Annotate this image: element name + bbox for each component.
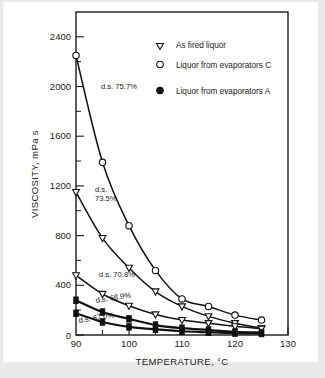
data-point-filled — [233, 330, 237, 336]
series-line — [76, 192, 262, 328]
annotation-ds-73-5-line2: 73.5% — [95, 194, 117, 203]
y-axis-title: VISCOSITY, mPa s — [29, 130, 40, 218]
legend-entry-liquor-evaporators-c: Liquor from evaporators C — [157, 61, 271, 70]
data-point-open-circle — [179, 296, 185, 302]
annotation-ds-73-5-line1: d.s. — [95, 185, 107, 194]
y-tick-label-2000: 2000 — [50, 81, 71, 92]
data-point-open-circle — [73, 52, 79, 58]
data-point-open-circle — [152, 267, 158, 273]
data-point-open-circle — [126, 222, 132, 228]
open-triangle-down-icon — [157, 44, 164, 50]
legend-label-2: Liquor from evaporators A — [176, 87, 271, 96]
y-tick-label-2400: 2400 — [50, 31, 71, 42]
x-tick-label-120: 120 — [227, 338, 243, 349]
data-point-filled — [180, 328, 184, 334]
annotation-ds-75-7: d.s. 75.7% — [101, 82, 137, 91]
x-tick-label-130: 130 — [280, 338, 296, 349]
data-point-filled — [206, 329, 210, 335]
data-point-open-triangle — [152, 289, 159, 295]
chart-figure: 2400 2000 1600 1200 800 400 0 90 100 110… — [0, 0, 325, 378]
y-tick-label-1600: 1600 — [50, 130, 71, 141]
filled-circle-icon — [157, 87, 164, 94]
legend-entry-liquor-evaporators-a: Liquor from evaporators A — [157, 87, 271, 96]
x-tick-label-90: 90 — [71, 338, 82, 349]
data-point-open-circle — [232, 312, 238, 318]
data-point-open-circle — [99, 159, 105, 165]
data-point-open-circle — [205, 303, 211, 309]
legend-entry-as-fired-liquor: As fired liquor — [157, 41, 227, 50]
data-point-filled — [74, 297, 78, 303]
legend: As fired liquor Liquor from evaporators … — [157, 41, 272, 96]
data-point-filled — [153, 326, 157, 332]
data-point-filled — [127, 316, 131, 322]
x-tick-label-100: 100 — [121, 338, 137, 349]
data-point-open-circle — [258, 317, 264, 323]
data-point-filled — [127, 324, 131, 330]
open-circle-icon — [157, 61, 164, 68]
legend-label-0: As fired liquor — [176, 41, 226, 50]
x-axis-title: TEMPERATURE, °C — [135, 356, 228, 367]
data-point-open-triangle — [73, 190, 80, 196]
legend-label-1: Liquor from evaporators C — [176, 61, 271, 70]
data-point-filled — [259, 330, 263, 336]
y-tick-label-800: 800 — [55, 230, 71, 241]
y-tick-label-1200: 1200 — [50, 180, 71, 191]
y-tick-label-400: 400 — [55, 279, 71, 290]
annotation-ds-70-8: d.s. 70.8% — [99, 270, 135, 279]
data-point-open-triangle — [73, 273, 80, 279]
x-tick-label-110: 110 — [174, 338, 189, 349]
viscosity-temperature-plot: 2400 2000 1600 1200 800 400 0 90 100 110… — [0, 0, 325, 378]
